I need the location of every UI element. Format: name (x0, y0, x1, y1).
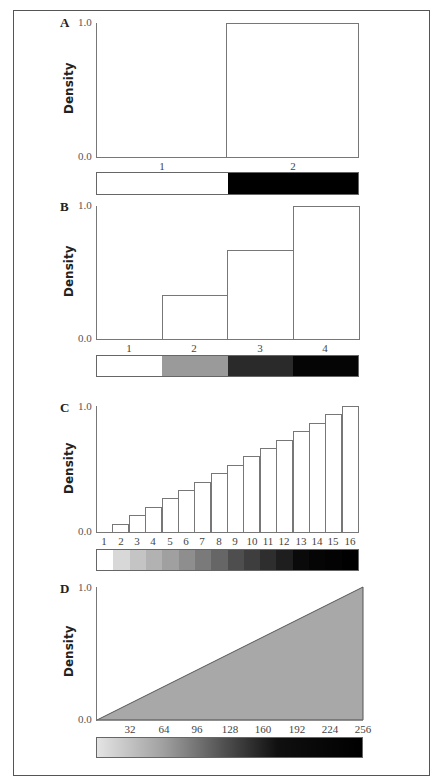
colorbar (96, 737, 363, 758)
x-tick-label: 32 (115, 723, 145, 735)
x-tick-label: 224 (315, 723, 345, 735)
x-tick-label: 192 (282, 723, 312, 735)
x-tick-label: 96 (182, 723, 212, 735)
density-area (0, 0, 438, 783)
x-tick-label: 128 (215, 723, 245, 735)
x-tick-label: 64 (149, 723, 179, 735)
x-tick-label: 256 (348, 723, 378, 735)
x-tick-label: 160 (248, 723, 278, 735)
